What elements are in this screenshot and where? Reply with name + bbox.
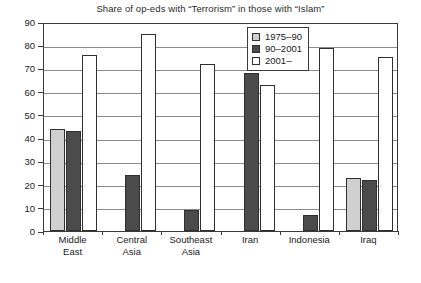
- legend-swatch-icon: [252, 45, 260, 53]
- y-tick-label: 30: [24, 158, 35, 168]
- x-category-label-line: Iran: [242, 234, 258, 246]
- x-tick-mark: [161, 231, 162, 235]
- legend-item: 90–2001: [252, 43, 302, 55]
- y-tick-label: 20: [24, 181, 35, 191]
- legend-swatch-icon: [252, 33, 260, 41]
- x-category-label-line: Iraq: [360, 234, 376, 246]
- y-tick-label: 0: [30, 227, 35, 237]
- legend-label: 1975–90: [265, 32, 302, 42]
- chart-title: Share of op-eds with “Terrorism” in thos…: [0, 3, 421, 14]
- x-category-label-line: Asia: [116, 246, 147, 258]
- y-tick-label: 10: [24, 204, 35, 214]
- y-tick-label: 70: [24, 65, 35, 75]
- y-tick-label: 50: [24, 111, 35, 121]
- y-tick-label: 60: [24, 88, 35, 98]
- x-category-label-line: Middle: [59, 234, 87, 246]
- x-tick-mark: [398, 231, 399, 235]
- x-tick-mark: [221, 231, 222, 235]
- bar: [362, 180, 377, 231]
- y-tick-label: 80: [24, 41, 35, 51]
- x-category-label: SoutheastAsia: [170, 234, 213, 257]
- x-category-label: MiddleEast: [59, 234, 87, 257]
- bar-group: [44, 24, 398, 231]
- chart-legend: 1975–9090–20012001–: [247, 27, 309, 71]
- legend-item: 2001–: [252, 55, 302, 67]
- x-category-label: Iran: [242, 234, 258, 246]
- x-tick-mark: [339, 231, 340, 235]
- x-category-label-line: Asia: [170, 246, 213, 258]
- x-category-label: Iraq: [360, 234, 376, 246]
- plot-area: [43, 23, 398, 232]
- x-category-label-line: Indonesia: [289, 234, 330, 246]
- x-category-label: CentralAsia: [116, 234, 147, 257]
- y-tick-label: 90: [24, 18, 35, 28]
- legend-label: 90–2001: [265, 44, 302, 54]
- x-category-label-line: East: [59, 246, 87, 258]
- x-axis: MiddleEastCentralAsiaSoutheastAsiaIranIn…: [43, 234, 398, 274]
- x-tick-mark: [43, 231, 44, 235]
- x-category-label: Indonesia: [289, 234, 330, 246]
- x-category-label-line: Central: [116, 234, 147, 246]
- legend-label: 2001–: [265, 56, 291, 66]
- x-category-label-line: Southeast: [170, 234, 213, 246]
- x-tick-mark: [102, 231, 103, 235]
- legend-swatch-icon: [252, 57, 260, 65]
- bar: [346, 178, 361, 231]
- y-tick-label: 40: [24, 134, 35, 144]
- x-tick-mark: [280, 231, 281, 235]
- legend-item: 1975–90: [252, 31, 302, 43]
- bar: [378, 57, 393, 231]
- bar-chart: Share of op-eds with “Terrorism” in thos…: [0, 0, 421, 283]
- y-axis: 0102030405060708090: [0, 23, 39, 232]
